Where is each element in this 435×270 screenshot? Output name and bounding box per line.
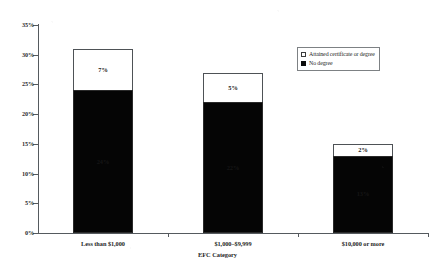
y-tick-label: 5% [25, 198, 34, 207]
open-square-icon [301, 52, 306, 57]
stacked-bar: 7%24% [73, 49, 133, 233]
bar-value-label: 24% [97, 158, 109, 166]
x-tick-mark [428, 233, 429, 237]
filled-square-icon [301, 61, 306, 66]
bar-segment-attained: 7% [73, 49, 133, 91]
x-axis-line [38, 233, 428, 234]
legend-label-no-degree: No degree [309, 59, 332, 67]
x-tick-mark [168, 233, 169, 237]
x-category-label: $1,000–$9,999 [173, 239, 293, 248]
legend-label-attained: Attained certificate or degree [309, 50, 375, 58]
y-tick-label: 20% [22, 109, 34, 118]
bar-value-label: 13% [357, 190, 369, 198]
bar-value-label: 2% [358, 146, 367, 154]
x-axis-title: EFC Category [0, 250, 435, 259]
stacked-bar: 5%22% [203, 73, 263, 233]
legend-item-attained: Attained certificate or degree [301, 50, 375, 58]
y-tick-label: 30% [22, 50, 34, 59]
x-category-label: Less than $1,000 [43, 239, 163, 248]
bar-value-label: 5% [228, 84, 237, 92]
x-category-label: $10,000 or more [303, 239, 423, 248]
chart-legend: Attained certificate or degree No degree [297, 47, 380, 71]
x-tick-mark [298, 233, 299, 237]
stacked-bar: 2%13% [333, 144, 393, 233]
y-tick-label: 10% [22, 169, 34, 178]
bar-chart: 0%5%10%15%20%25%30%35% 7%24%5%22%2%13% L… [0, 0, 435, 270]
bar-segment-no-degree: 22% [203, 102, 263, 233]
bar-segment-attained: 5% [203, 73, 263, 103]
legend-item-no-degree: No degree [301, 59, 375, 67]
y-tick-label: 15% [22, 139, 34, 148]
bar-segment-no-degree: 24% [73, 90, 133, 233]
bar-value-label: 7% [98, 66, 107, 74]
y-tick-label: 35% [22, 20, 34, 29]
bar-segment-attained: 2% [333, 144, 393, 156]
y-tick-label: 0% [25, 228, 34, 237]
bar-segment-no-degree: 13% [333, 156, 393, 233]
bar-value-label: 22% [227, 164, 239, 172]
y-tick-label: 25% [22, 79, 34, 88]
